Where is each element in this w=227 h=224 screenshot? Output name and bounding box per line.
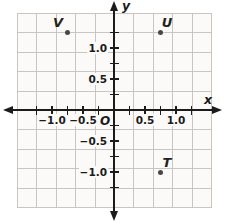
- point-label: V: [53, 16, 63, 29]
- y-tick-label: 0.5: [87, 73, 108, 85]
- y-axis-tick: [110, 125, 119, 127]
- y-axis-bottom-arrowhead-icon: [110, 211, 118, 221]
- coordinate-plane: x y O −1.0−0.50.51.01.00.5−0.5−1.0VUT: [0, 0, 227, 224]
- y-axis-tick: [110, 78, 119, 80]
- y-axis-tick: [110, 156, 119, 158]
- y-axis-tick: [110, 32, 119, 34]
- point-label: T: [163, 155, 172, 168]
- y-tick-label: 1.0: [87, 42, 108, 54]
- y-axis-tick: [110, 63, 119, 65]
- y-axis-tick: [110, 171, 119, 173]
- x-axis-tick: [129, 106, 131, 115]
- x-axis-left-arrowhead-icon: [3, 106, 13, 114]
- data-point: [158, 30, 163, 35]
- y-axis-tick: [110, 140, 119, 142]
- y-axis-tick: [110, 94, 119, 96]
- x-tick-label: 1.0: [166, 114, 187, 126]
- point-label: U: [162, 16, 173, 29]
- x-axis-tick: [160, 106, 162, 115]
- y-axis-top-arrowhead-icon: [110, 1, 118, 11]
- y-axis-label: y: [122, 0, 130, 12]
- x-axis-right-arrowhead-icon: [212, 106, 222, 114]
- y-axis-tick: [110, 47, 119, 49]
- data-point: [65, 30, 70, 35]
- y-tick-label: −1.0: [79, 166, 108, 178]
- x-tick-label: −0.5: [68, 114, 97, 126]
- y-tick-label: −0.5: [79, 135, 108, 147]
- x-tick-label: 0.5: [135, 114, 156, 126]
- x-axis-tick: [98, 106, 100, 115]
- y-axis-tick: [110, 187, 119, 189]
- data-point: [158, 170, 163, 175]
- x-tick-label: −1.0: [37, 114, 66, 126]
- x-axis-label: x: [204, 94, 212, 106]
- y-axis-line: [113, 6, 115, 214]
- x-axis-tick: [191, 106, 193, 115]
